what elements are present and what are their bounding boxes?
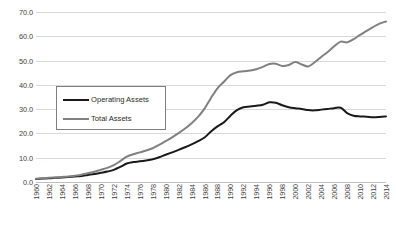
x-tick-label: 1968 — [84, 184, 93, 200]
x-tick-label: 1960 — [32, 184, 41, 200]
x-tick-label: 1994 — [252, 184, 261, 200]
x-tick-label: 2000 — [291, 184, 300, 200]
y-tick-label: 20.0 — [1, 129, 33, 138]
legend-label-total-assets: Total Assets — [89, 115, 132, 123]
legend-item-operating-assets: Operating Assets — [63, 94, 149, 106]
x-axis-labels: 1960196219641966196819701972197419761978… — [36, 184, 386, 242]
x-tick-label: 1978 — [149, 184, 158, 200]
x-tick-label: 2004 — [317, 184, 326, 200]
x-tick-label: 1982 — [175, 184, 184, 200]
legend-item-total-assets: Total Assets — [63, 113, 132, 125]
x-tick-label: 1988 — [213, 184, 222, 200]
y-tick-label: 30.0 — [1, 105, 33, 114]
x-tick-label: 1998 — [278, 184, 287, 200]
x-tick-label: 1984 — [188, 184, 197, 200]
y-tick-label: 10.0 — [1, 153, 33, 162]
x-tick-label: 1970 — [97, 184, 106, 200]
chart-legend: Operating Assets Total Assets — [56, 86, 166, 130]
y-tick-label: 70.0 — [1, 8, 33, 17]
y-tick-label: 60.0 — [1, 32, 33, 41]
legend-swatch-total-assets — [63, 118, 89, 120]
x-tick-label: 1980 — [162, 184, 171, 200]
x-tick-label: 1990 — [226, 184, 235, 200]
y-tick-label: 50.0 — [1, 56, 33, 65]
x-tick-label: 1966 — [71, 184, 80, 200]
legend-label-operating-assets: Operating Assets — [89, 96, 149, 104]
y-tick-label: 0.0 — [1, 178, 33, 187]
x-tick-label: 1972 — [110, 184, 119, 200]
x-tick-label: 1974 — [123, 184, 132, 200]
x-tick-label: 2010 — [356, 184, 365, 200]
x-tick-label: 2012 — [369, 184, 378, 200]
line-chart: 0.010.020.030.040.050.060.070.0 19601962… — [0, 0, 396, 243]
y-axis-labels: 0.010.020.030.040.050.060.070.0 — [0, 12, 33, 182]
x-tick-label: 2014 — [382, 184, 391, 200]
x-tick-label: 1964 — [58, 184, 67, 200]
x-tick-label: 2006 — [330, 184, 339, 200]
x-tick-label: 1976 — [136, 184, 145, 200]
x-tick-label: 1992 — [239, 184, 248, 200]
x-tick-label: 1962 — [45, 184, 54, 200]
x-tick-label: 2008 — [343, 184, 352, 200]
legend-swatch-operating-assets — [63, 99, 89, 101]
x-tick-label: 1986 — [201, 184, 210, 200]
x-tick-label: 2002 — [304, 184, 313, 200]
y-tick-label: 40.0 — [1, 80, 33, 89]
x-tick-label: 1996 — [265, 184, 274, 200]
